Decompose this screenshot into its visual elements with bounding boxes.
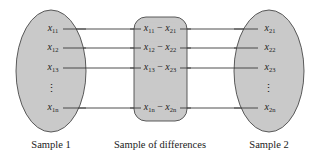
difference-item: x12 − x22 — [143, 42, 178, 54]
sample2-ellipsis: ⋮ — [263, 86, 274, 90]
difference-item: x13 − x23 — [143, 62, 178, 74]
sample1-item: x13 — [48, 62, 59, 74]
sample1-ellipsis: ⋮ — [46, 86, 57, 90]
difference-item: x1n − x2n — [143, 102, 178, 114]
sample2-label: Sample 2 — [249, 139, 288, 150]
sample2-item: x2n — [265, 102, 276, 114]
sample2-item: x21 — [265, 23, 276, 35]
difference-item: x11 − x21 — [143, 23, 177, 35]
sample2-item: x23 — [265, 62, 276, 74]
sample1-label: Sample 1 — [31, 139, 70, 150]
sample2-item: x22 — [265, 42, 276, 54]
differences-label: Sample of differences — [114, 139, 206, 150]
sample1-item: x12 — [48, 42, 59, 54]
sample1-item: x1n — [48, 102, 59, 114]
sample1-item: x11 — [48, 23, 59, 35]
